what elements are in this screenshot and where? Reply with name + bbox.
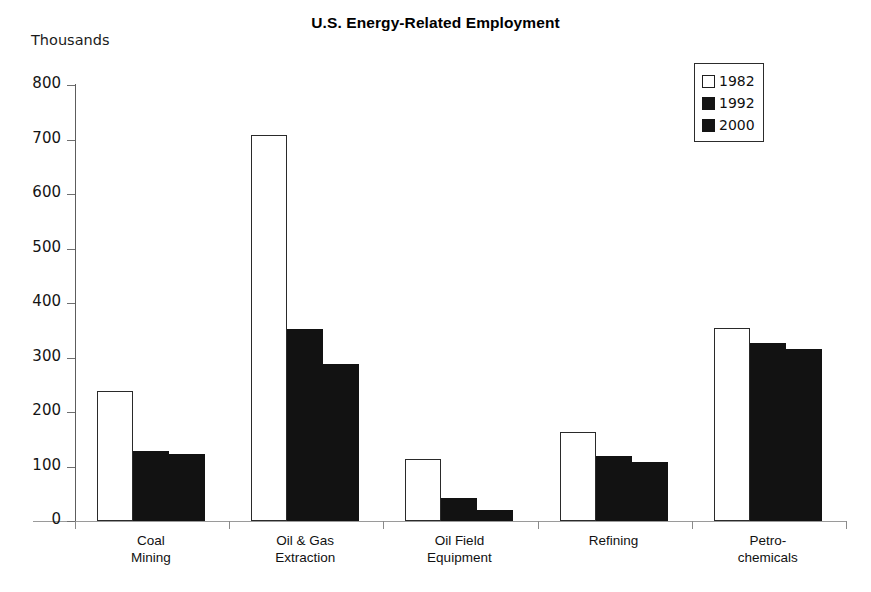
y-axis-tick-label: 800 [32,74,61,92]
x-axis-category-label: Refining [544,533,684,550]
y-axis-tick-mark [67,521,75,522]
bar [786,349,822,521]
y-axis-tick-label: 700 [32,129,61,147]
legend-item: 2000 [702,114,763,136]
y-axis-tick-label: 0 [51,510,61,528]
x-axis-category-label: Petro- chemicals [698,533,838,566]
x-axis-tick-mark [229,521,230,529]
x-axis-category-label: Coal Mining [81,533,221,566]
bar [133,451,169,521]
chart-title: U.S. Energy-Related Employment [0,14,871,32]
y-axis-tick-mark [67,358,75,359]
bar [287,329,323,521]
y-axis-tick-mark [67,140,75,141]
y-axis-tick-label: 100 [32,456,61,474]
y-axis-tick-label: 300 [32,347,61,365]
x-axis-tick-mark [538,521,539,529]
legend-swatch-icon [702,75,715,88]
y-axis-tick-mark [67,467,75,468]
legend-item: 1992 [702,92,763,114]
bar [251,135,287,521]
bar [714,328,750,521]
x-axis-tick-mark [692,521,693,529]
bars-layer [75,85,846,521]
x-axis-tick-mark [383,521,384,529]
bar [97,391,133,521]
bar [477,510,513,521]
y-axis-tick-label: 400 [32,292,61,310]
y-axis-tick-mark [67,194,75,195]
bar [632,462,668,521]
bar [560,432,596,521]
y-axis-unit-label: Thousands [31,32,110,48]
bar [169,454,205,521]
bar [441,498,477,521]
legend-label: 2000 [719,118,755,132]
y-axis-tick-label: 600 [32,183,61,201]
y-axis-tick-mark [67,303,75,304]
legend-swatch-icon [702,97,715,110]
y-axis-tick-mark [67,412,75,413]
x-axis-line [33,521,846,522]
y-axis-tick-mark [67,85,75,86]
x-axis-tick-mark [75,521,76,529]
y-axis-tick-label: 500 [32,238,61,256]
y-axis-tick-label: 200 [32,401,61,419]
x-axis-category-label: Oil & Gas Extraction [235,533,375,566]
bar [596,456,632,521]
x-axis-category-label: Oil Field Equipment [389,533,529,566]
legend-label: 1992 [719,96,755,110]
bar [323,364,359,522]
legend-item: 1982 [702,70,763,92]
legend-label: 1982 [719,74,755,88]
legend: 198219922000 [694,63,764,142]
bar [750,343,786,521]
x-axis-tick-mark [846,521,847,529]
bar [405,459,441,521]
bar-chart: U.S. Energy-Related Employment Thousands… [0,0,871,592]
y-axis-tick-mark [67,249,75,250]
legend-swatch-icon [702,119,715,132]
